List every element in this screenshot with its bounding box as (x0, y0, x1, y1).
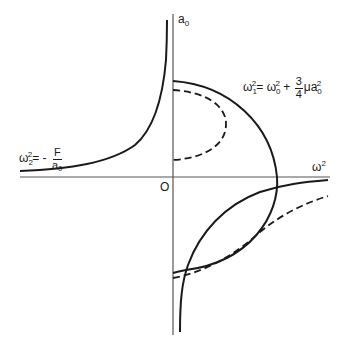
hyperbola-branch-lower-right (180, 180, 328, 332)
eq1-frac-den: 4 (295, 89, 303, 101)
eq1-lhs-sup: 2 (252, 79, 256, 88)
unstable-branch-dashed-lower (173, 196, 328, 278)
x-axis-label-symbol: ω (312, 160, 321, 174)
eq1-plus: + (283, 80, 290, 94)
x-axis-label-superscript: 2 (321, 159, 325, 168)
equation-omega1: ω12= ω02 + 34μa02 (243, 76, 321, 100)
eq1-mu: μ (304, 80, 311, 94)
origin-label: O (160, 181, 169, 193)
eq1-equals: = (256, 80, 263, 94)
eq2-equals: = - (32, 151, 46, 165)
eq2-frac-den-sub: 0 (58, 164, 62, 173)
eq2-fraction: Fa0 (51, 147, 64, 171)
eq2-lhs-sup: 2 (28, 150, 32, 159)
eq2-lhs-sub: 2 (28, 158, 32, 167)
eq1-fraction: 34 (295, 76, 303, 100)
eq1-term1-sup: 2 (275, 79, 279, 88)
eq1-term2-sub: 0 (317, 87, 321, 96)
y-axis-label-subscript: 0 (185, 19, 189, 28)
eq2-frac-den: a0 (51, 160, 64, 172)
y-axis-label-symbol: a (178, 12, 185, 26)
eq1-term2-sup: 2 (317, 79, 321, 88)
equation-omega2: ω22= - Fa0 (19, 147, 65, 171)
eq2-lhs: ω (19, 151, 28, 165)
eq1-term1-sub: 0 (276, 87, 280, 96)
x-axis-label: ω2 (312, 161, 326, 173)
y-axis-label: a0 (178, 13, 189, 25)
eq1-lhs-sub: 1 (252, 87, 256, 96)
unstable-branch-dashed-upper (173, 90, 226, 160)
eq1-frac-num: 3 (295, 76, 303, 89)
diagram-canvas (0, 0, 345, 349)
eq1-lhs: ω (243, 80, 252, 94)
